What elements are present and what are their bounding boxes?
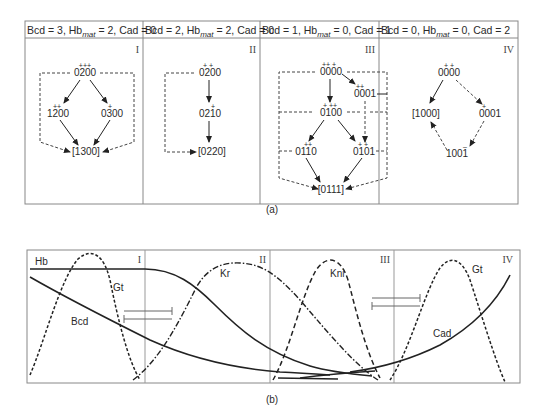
node-marks: + +: [203, 62, 213, 69]
label-bcd: Bcd: [71, 316, 88, 327]
node-marks: ++: [53, 103, 61, 110]
inhibition-marker-III-IV: [372, 294, 420, 310]
panel-b-frame: [27, 250, 520, 383]
label-gt-right: Gt: [472, 264, 483, 275]
node-0220-steady: [0220]: [198, 146, 226, 157]
node-marks: + ++: [323, 102, 337, 109]
region-label-IV: IV: [503, 44, 514, 55]
inhibition-marker-I-II: [124, 307, 172, 323]
baseline-segment: [278, 378, 338, 379]
panel-b: I II III IV Hb Gt Bcd Kr: [27, 250, 520, 405]
node-marks: ++: [304, 141, 312, 148]
column-header-2: Bcd = 2, Hbmat = 2, Cad = 0: [145, 24, 274, 39]
node-marks: +: [108, 103, 112, 110]
region-label-I: I: [138, 254, 141, 265]
node-marks: +: [211, 103, 215, 110]
column-header-3: Bcd = 1, Hbmat = 0, Cad = 1: [262, 24, 391, 39]
state-graph-III: 0000 ++ + 0001 ++ 0100 + ++ 0110 ++ 0101…: [279, 61, 387, 195]
label-gt-left: Gt: [113, 282, 124, 293]
node-marks: + +: [444, 62, 454, 69]
region-label-II: II: [249, 44, 256, 55]
node-marks: + +: [358, 141, 368, 148]
figure-canvas: Bcd = 3, Hbmat = 2, Cad = 0 Bcd = 2, Hbm…: [0, 0, 544, 419]
panel-a-frame: [25, 21, 518, 204]
node-marks: +: [482, 103, 486, 110]
panel-a-caption: (a): [266, 204, 278, 215]
column-header-4: Bcd = 0, Hbmat = 0, Cad = 2: [381, 24, 510, 39]
panel-a: Bcd = 3, Hbmat = 2, Cad = 0 Bcd = 2, Hbm…: [25, 21, 518, 215]
panel-b-caption: (b): [266, 394, 278, 405]
cad-curve: [350, 275, 510, 372]
region-label-III: III: [380, 254, 390, 265]
node-marks: –: [463, 143, 467, 150]
column-header-1: Bcd = 3, Hbmat = 2, Cad = 0: [27, 24, 156, 39]
region-label-II: II: [259, 254, 266, 265]
kni-curve: [273, 260, 380, 380]
gt-right-curve: [390, 260, 505, 382]
region-label-III: III: [365, 44, 375, 55]
node-marks: +++: [79, 62, 91, 69]
region-label-IV: IV: [502, 254, 513, 265]
label-kr: Kr: [220, 268, 231, 279]
label-kni: Kni: [330, 268, 344, 279]
state-graph-IV: 0000 + + [1000] 0001 + 1001 –: [412, 62, 501, 159]
node-1000-steady: [1000]: [412, 108, 440, 119]
node-0111-steady: [0111]: [318, 184, 345, 195]
region-label-I: I: [136, 44, 139, 55]
node-marks: ++ +: [322, 61, 336, 68]
label-hb: Hb: [35, 256, 48, 267]
label-cad: Cad: [433, 328, 451, 339]
state-graph-II: 0200 + + 0210 + [0220]: [165, 62, 226, 157]
kr-curve: [133, 263, 378, 380]
node-marks: ++: [356, 83, 364, 90]
node-0300: 0300: [101, 108, 124, 119]
node-1300-steady: [1300]: [72, 146, 100, 157]
state-graph-I: 0200 +++ 1200 ++ 0300 + [1300]: [40, 62, 134, 157]
